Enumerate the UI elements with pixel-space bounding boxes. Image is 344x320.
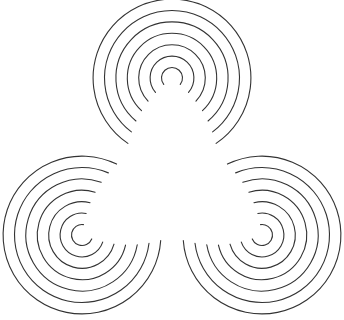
- triskelion-arc-diagram: [0, 0, 344, 320]
- figure-root: [0, 0, 344, 320]
- figure-background: [0, 0, 344, 320]
